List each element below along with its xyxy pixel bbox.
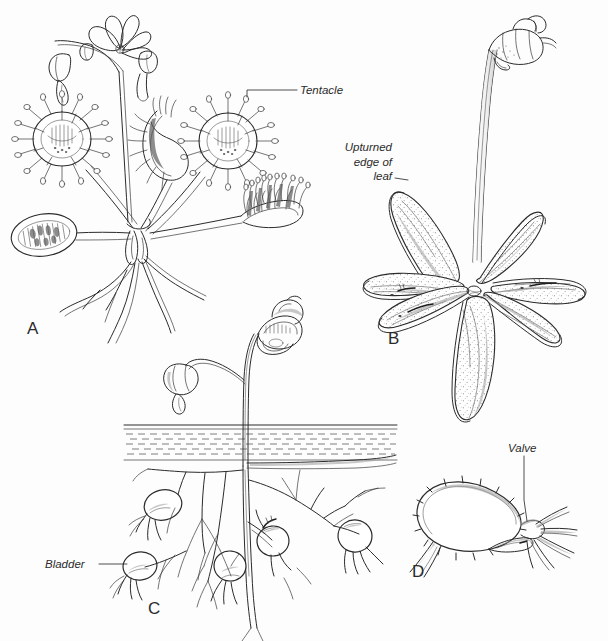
sundew-leaf-folded-middle [128, 96, 188, 231]
sundew-leaf-lower-left-oval [8, 209, 131, 261]
bladder-upper-left [129, 486, 185, 540]
callout-valve: Valve [508, 441, 536, 456]
bladder-centre-right [256, 510, 291, 576]
butterwort-stalk [473, 50, 497, 262]
bladder-lower-left [110, 550, 159, 600]
bladderwort-flower-main [257, 296, 303, 354]
panel-b-butterwort-drawing [363, 16, 586, 422]
panel-letter-c: C [148, 600, 161, 617]
butterwort-flower [489, 16, 556, 70]
callout-tentacle: Tentacle [300, 83, 343, 98]
tentacle-leader-line [247, 90, 297, 97]
figure-illustration: Tentacle Upturned edge of leaf Bladder V… [0, 0, 608, 641]
bladderwort-flower-stalk [243, 334, 259, 466]
sundew-leaf-left-round [12, 91, 137, 228]
sundew-flower-buds [49, 44, 93, 106]
sundew-leaf-right-round [148, 92, 278, 234]
panel-d-bladder-detail-drawing [410, 476, 577, 577]
callout-upturned-edge-of-leaf: Upturned edge of leaf [300, 140, 392, 184]
panel-letter-b: B [388, 330, 400, 347]
callout-bladder: Bladder [45, 557, 85, 572]
sundew-crown [126, 219, 151, 265]
panel-c-bladderwort-drawing [110, 296, 397, 641]
bladder-right [336, 518, 383, 574]
panel-letter-a: A [27, 320, 39, 337]
sundew-roots [60, 256, 206, 343]
panel-letter-d: D [412, 563, 425, 580]
valve-leader-line [524, 456, 527, 521]
water-surface-band [124, 425, 397, 460]
panel-a-sundew-drawing [8, 16, 310, 343]
sundew-leaf-right-elongate [150, 173, 310, 239]
upturned-edge-leader-line [395, 178, 408, 180]
bladderwort-flower-side [164, 359, 245, 414]
bladder-centre-bottom [211, 549, 247, 604]
bladderwort-floating-stem [247, 455, 396, 469]
